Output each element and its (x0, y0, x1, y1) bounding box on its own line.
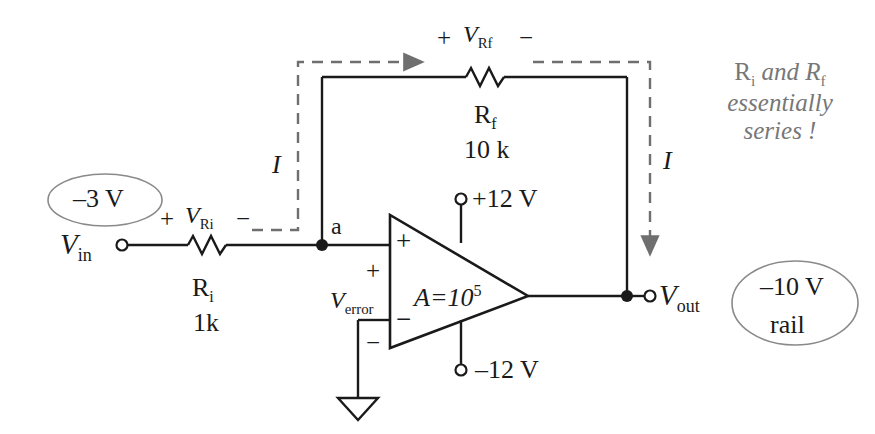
opamp-inverting-input-sign: − (396, 306, 411, 333)
dashed-current-path-input (252, 62, 420, 230)
supply-positive-terminal (456, 194, 467, 205)
output-rail-callout-line1: –10 V (760, 274, 824, 300)
resistor-rf-zigzag (466, 68, 504, 86)
v-in-label: Vin (60, 230, 92, 264)
series-annotation-line-1: Ri and Rf (700, 58, 860, 89)
output-rail-callout-line2: rail (770, 312, 805, 338)
series-annotation-line-2: essentially (700, 89, 860, 117)
resistor-ri-zigzag (188, 236, 226, 254)
supply-positive-label: +12 V (472, 186, 537, 212)
ri-drop-label: VRi (185, 203, 214, 232)
ri-drop-plus-sign: + (160, 206, 174, 231)
v-error-label: Verror (330, 288, 374, 317)
ri-drop-minus-sign: − (236, 206, 250, 231)
v-out-terminal (645, 291, 656, 302)
rf-drop-minus-sign: − (519, 25, 533, 50)
rf-drop-label: VRf (463, 22, 493, 51)
series-annotation: Ri and Rf essentially series ! (700, 58, 860, 145)
v-error-minus-sign: − (366, 330, 380, 355)
circuit-diagram-canvas: Vin –3 V + VRi − Ri 1k a I I + VRf − Rf … (0, 0, 875, 434)
resistor-ri-name: Ri (192, 275, 214, 305)
resistor-rf-value: 10 k (464, 137, 510, 163)
supply-negative-terminal (456, 365, 467, 376)
opamp-gain-label: A=105 (414, 283, 482, 311)
v-error-plus-sign: + (366, 258, 380, 283)
dashed-current-path-output (533, 62, 650, 252)
supply-negative-label: –12 V (475, 357, 539, 383)
current-label-input: I (272, 152, 281, 178)
node-a-label: a (331, 214, 342, 238)
opamp-noninverting-input-sign: + (396, 228, 411, 255)
v-in-terminal (117, 240, 128, 251)
v-out-label: Vout (659, 281, 700, 315)
resistor-ri-value: 1k (193, 310, 219, 336)
ground-symbol (338, 398, 378, 420)
input-voltage-callout-text: –3 V (73, 186, 124, 212)
series-annotation-line-3: series ! (700, 117, 860, 145)
resistor-rf-name: Rf (474, 102, 497, 132)
current-label-output: I (663, 148, 672, 174)
rf-drop-plus-sign: + (437, 25, 451, 50)
